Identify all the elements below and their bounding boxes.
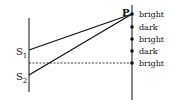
fringe-dot — [130, 25, 134, 29]
source-s1-label: S1 — [16, 46, 27, 60]
fringe-label: bright — [139, 59, 165, 68]
double-slit-diagram: P S1 S2 bright dark bright dark bright — [0, 0, 172, 112]
source-s2-label: S2 — [16, 71, 27, 85]
fringe-dot — [130, 12, 134, 16]
fringe-label: dark — [139, 47, 158, 56]
point-p-label: P — [122, 7, 130, 18]
fringe-dot — [130, 49, 134, 53]
fringe-label: bright — [139, 10, 165, 19]
fringe-label: bright — [139, 35, 165, 44]
fringe-dot — [130, 61, 134, 65]
fringe-label: dark — [139, 23, 158, 32]
fringe-dot — [130, 37, 134, 41]
